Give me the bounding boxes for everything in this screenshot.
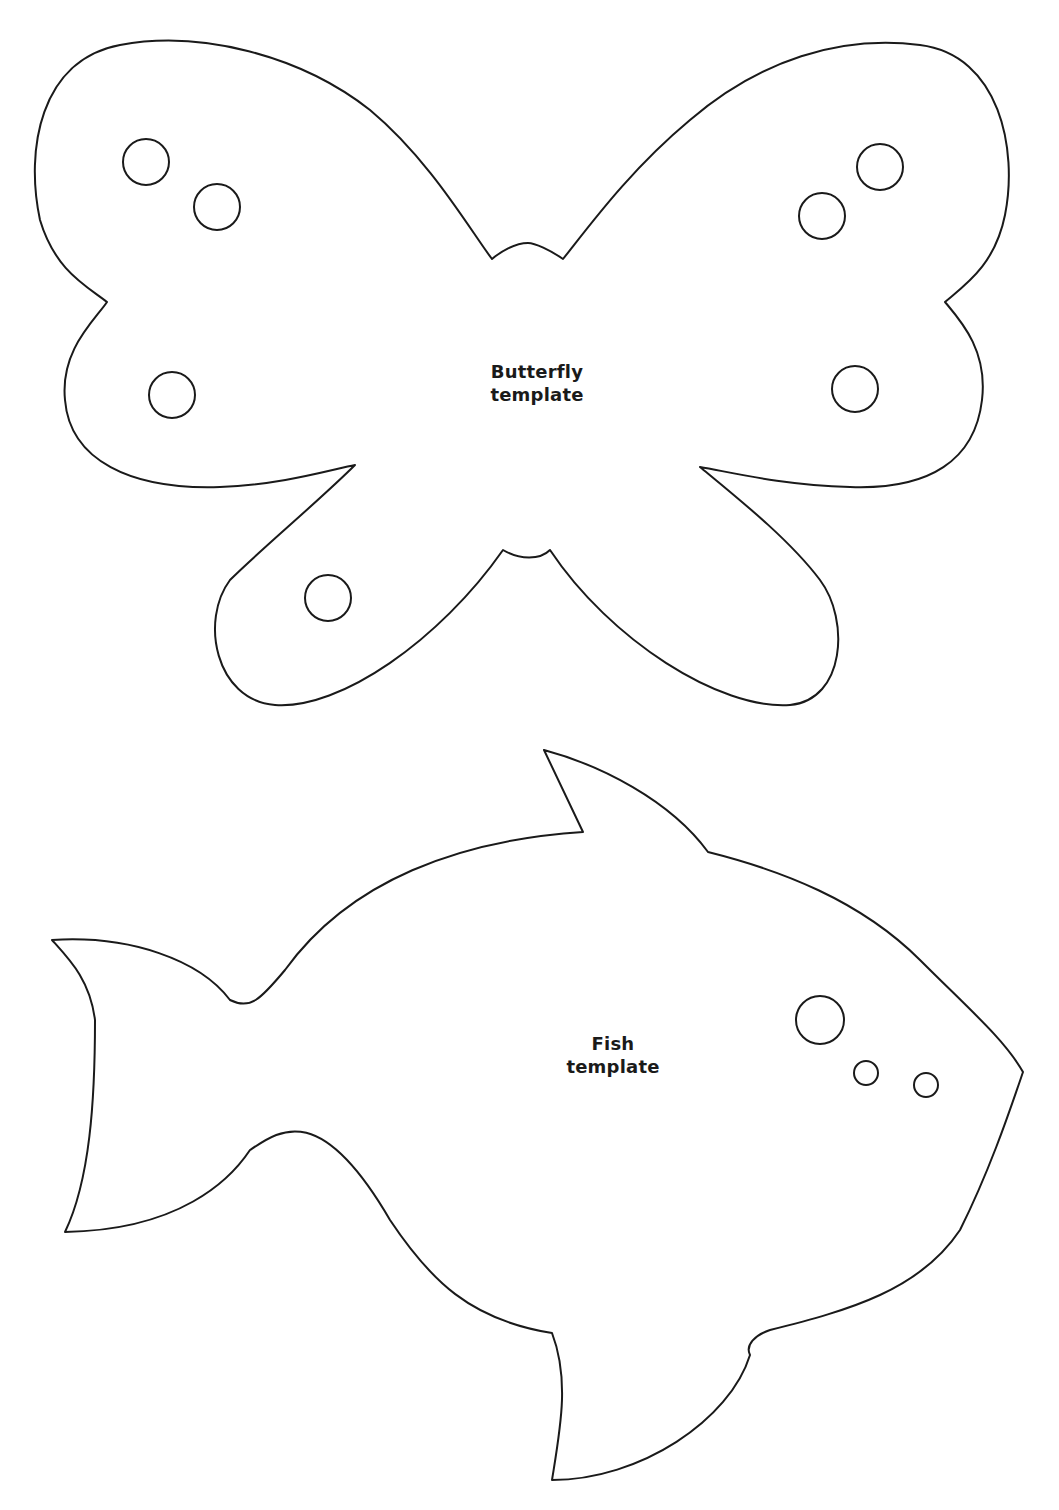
butterfly-spot-icon: [149, 372, 195, 418]
fish-spot-icon: [854, 1061, 878, 1085]
butterfly-spot-icon: [123, 139, 169, 185]
butterfly-spot-icon: [799, 193, 845, 239]
fish-outline: [52, 750, 1023, 1480]
fish-label-line1: Fish: [523, 1032, 703, 1055]
fish-spot-icon: [914, 1073, 938, 1097]
fish-template-label: Fish template: [523, 1032, 703, 1078]
butterfly-spot-icon: [194, 184, 240, 230]
fish-eye-icon: [796, 996, 844, 1044]
butterfly-label-line2: template: [447, 383, 627, 406]
fish-label-line2: template: [523, 1055, 703, 1078]
butterfly-spot-icon: [832, 366, 878, 412]
butterfly-label-line1: Butterfly: [447, 360, 627, 383]
butterfly-spot-icon: [857, 144, 903, 190]
template-sheet: Butterfly template Fish template: [0, 0, 1059, 1510]
template-artwork: [0, 0, 1059, 1510]
butterfly-spot-icon: [305, 575, 351, 621]
butterfly-template-label: Butterfly template: [447, 360, 627, 406]
